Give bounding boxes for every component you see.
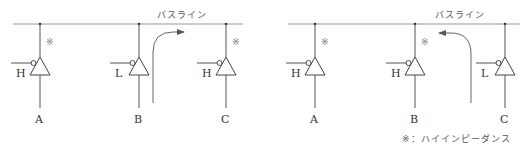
bus-label: バスライン xyxy=(435,10,485,20)
buffer-a: ※ H A xyxy=(286,23,329,126)
buffer-triangle-icon xyxy=(305,57,325,75)
inverter-bubble-icon xyxy=(130,61,135,66)
input-label: A xyxy=(309,113,319,126)
buffer-triangle-icon xyxy=(495,57,515,75)
buffer-triangle-icon xyxy=(30,57,50,75)
buffer-b: L B xyxy=(110,23,149,126)
input-label: A xyxy=(34,113,44,126)
tristate-bus-diagram: バスライン ※ H A L B ※ xyxy=(0,0,529,149)
control-label: H xyxy=(202,67,212,80)
high-z-mark: ※ xyxy=(321,37,329,47)
inverter-bubble-icon xyxy=(31,61,36,66)
bus-label: バスライン xyxy=(157,10,207,20)
control-label: H xyxy=(391,67,401,80)
buffer-c: ※ H C xyxy=(197,23,240,126)
inverter-bubble-icon xyxy=(217,61,222,66)
buffer-triangle-icon xyxy=(405,57,425,75)
buffer-triangle-icon xyxy=(129,57,149,75)
inverter-bubble-icon xyxy=(306,61,311,66)
right-panel: バスライン ※ H A ※ H B xyxy=(286,10,520,144)
high-z-mark: ※ xyxy=(46,37,54,47)
footnote: ※：ハイインピーダンス xyxy=(402,133,511,144)
control-label: L xyxy=(481,67,489,80)
left-panel: バスライン ※ H A L B ※ xyxy=(11,10,243,126)
signal-flow-arrow-icon xyxy=(439,33,471,103)
high-z-mark: ※ xyxy=(421,37,429,47)
control-label: L xyxy=(115,67,123,80)
buffer-a: ※ H A xyxy=(11,23,54,126)
input-label: B xyxy=(134,113,142,126)
inverter-bubble-icon xyxy=(406,61,411,66)
input-label: B xyxy=(410,113,418,126)
control-label: H xyxy=(291,67,301,80)
buffer-c: L C xyxy=(476,23,515,126)
buffer-b: ※ H B xyxy=(386,23,429,126)
high-z-mark: ※ xyxy=(232,37,240,47)
signal-flow-arrow-icon xyxy=(153,32,184,103)
inverter-bubble-icon xyxy=(496,61,501,66)
input-label: C xyxy=(221,113,229,126)
control-label: H xyxy=(16,67,26,80)
input-label: C xyxy=(500,113,508,126)
buffer-triangle-icon xyxy=(216,57,236,75)
